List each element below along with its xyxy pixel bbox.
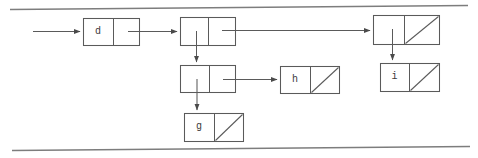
node-i-null-slash-icon [411,65,439,91]
node-d-label: d [83,27,113,37]
node-i-label: i [380,72,409,82]
node-g-null-slash-icon [216,115,243,141]
node-g-label: g [184,122,214,132]
edge-group [33,29,393,110]
node-top-right[interactable] [374,16,440,45]
node-h-label: h [280,75,310,85]
diagram-canvas: d h i g [0,0,478,158]
page-edge-top-line [10,6,468,10]
node-h-null-slash-icon [312,68,339,93]
node-top-right-box [374,16,440,45]
node-top-right-null-slash-icon [406,17,439,44]
node-top-middle[interactable] [181,18,236,46]
page-edge-bottom-line [12,147,470,151]
